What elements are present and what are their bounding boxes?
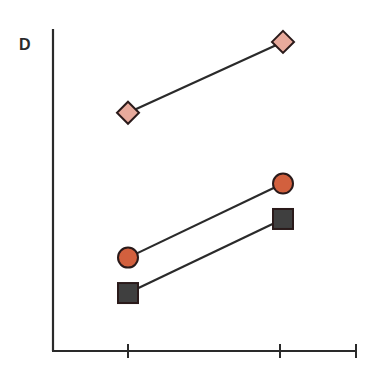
diamond-series: [117, 31, 294, 124]
square-marker-icon: [273, 209, 293, 229]
series-line: [128, 42, 283, 113]
series-line: [128, 219, 283, 293]
chart: [0, 0, 384, 375]
diamond-marker-icon: [272, 31, 294, 53]
circle-marker-icon: [273, 174, 293, 194]
square-marker-icon: [118, 283, 138, 303]
circle-series: [118, 174, 293, 268]
series-layer: [117, 31, 294, 303]
circle-marker-icon: [118, 248, 138, 268]
series-line: [128, 184, 283, 258]
diamond-marker-icon: [117, 102, 139, 124]
square-series: [118, 209, 293, 303]
